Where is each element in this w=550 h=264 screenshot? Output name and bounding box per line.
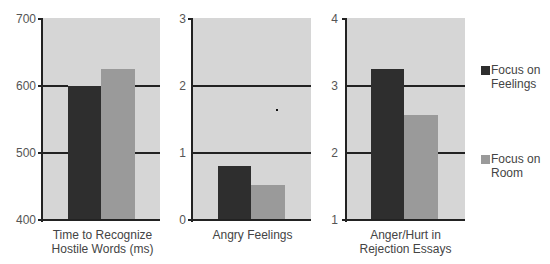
legend-label-line2: Room — [491, 166, 550, 180]
x-axis-label: Anger/Hurt in Rejection Essays — [343, 228, 468, 256]
legend-label-line2: Feelings — [491, 77, 550, 91]
x-axis-label-line2: Rejection Essays — [343, 242, 468, 256]
gridline-3-left — [346, 85, 371, 87]
y-tick-label: 3 — [314, 80, 338, 92]
gridline-2-left — [346, 152, 371, 154]
bar-focus-on-room — [404, 115, 438, 220]
y-tick-label: 2 — [314, 147, 338, 159]
y-axis — [345, 18, 347, 222]
y-tick-label: 1 — [314, 214, 338, 226]
bar-focus-on-feelings — [371, 69, 404, 220]
legend-swatch-dark — [481, 66, 490, 75]
x-axis — [342, 219, 465, 221]
chart-anger-hurt: 4 3 2 1 Anger/Hurt in Rejection Essays — [0, 0, 475, 264]
gridline-2-right — [438, 152, 465, 154]
y-tick — [342, 18, 347, 20]
legend-label-line1: Focus on — [491, 63, 550, 77]
y-tick-label: 4 — [314, 13, 338, 25]
legend-swatch-light — [481, 155, 490, 164]
gridline-3-right — [404, 85, 465, 87]
legend-label-line1: Focus on — [491, 152, 550, 166]
x-axis-label-line1: Anger/Hurt in — [343, 228, 468, 242]
